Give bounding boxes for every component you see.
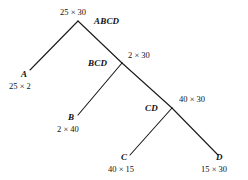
edge-bcd-to-b — [78, 63, 122, 115]
leaf-c-dimensions: 40 × 15 — [108, 165, 134, 174]
node-bcd-label: BCD — [88, 59, 107, 68]
leaf-a-dimensions: 25 × 2 — [9, 82, 31, 91]
parse-tree-diagram: 25 × 30 ABCD 2 × 30 BCD 40 × 30 CD A 25 … — [0, 0, 248, 180]
leaf-a-label: A — [21, 70, 27, 79]
edge-abcd-to-a — [30, 21, 78, 70]
node-cd-dimensions: 40 × 30 — [179, 95, 205, 104]
edge-cd-to-d — [172, 108, 218, 155]
leaf-d-dimensions: 15 × 30 — [201, 165, 227, 174]
leaf-b-label: B — [68, 113, 74, 122]
leaf-b-dimensions: 2 × 40 — [57, 125, 79, 134]
edge-abcd-to-bcd — [78, 21, 122, 63]
node-cd-label: CD — [145, 104, 158, 113]
edge-bcd-to-cd — [122, 63, 172, 108]
node-bcd-dimensions: 2 × 30 — [128, 51, 150, 60]
leaf-c-label: C — [121, 153, 127, 162]
node-abcd-label: ABCD — [94, 17, 119, 26]
node-abcd-dimensions: 25 × 30 — [60, 8, 86, 17]
leaf-d-label: D — [216, 153, 223, 162]
edge-cd-to-c — [130, 108, 172, 155]
